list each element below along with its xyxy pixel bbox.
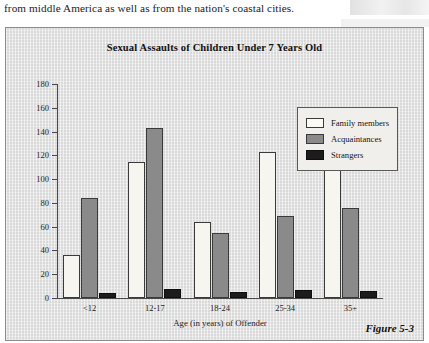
y-tick-label: 80 — [41, 198, 50, 208]
bar-group — [128, 84, 181, 298]
chart-title: Sexual Assaults of Children Under 7 Year… — [6, 42, 423, 53]
y-tick-mark — [52, 250, 58, 251]
y-tick-mark — [52, 298, 58, 299]
bar — [99, 293, 116, 298]
bar-group — [194, 84, 247, 298]
page-body-text: from middle America as well as from the … — [4, 1, 334, 15]
figure-container: Sexual Assaults of Children Under 7 Year… — [5, 27, 424, 341]
bar — [212, 233, 229, 298]
legend-label: Family members — [331, 118, 389, 128]
x-tick-label: 35+ — [344, 303, 357, 313]
y-tick-label: 180 — [36, 79, 49, 89]
legend-item: Strangers — [306, 147, 391, 163]
bar — [360, 291, 377, 298]
y-tick-mark — [52, 227, 58, 228]
y-tick-label: 40 — [41, 245, 50, 255]
legend-swatch — [306, 134, 324, 144]
x-tick-label: 12-17 — [145, 303, 165, 313]
y-tick-mark — [52, 203, 58, 204]
bar — [230, 292, 247, 298]
bar — [194, 222, 211, 298]
x-axis-line — [57, 298, 383, 299]
legend-swatch — [306, 118, 324, 128]
y-axis-line — [57, 84, 58, 299]
y-tick-mark — [52, 84, 58, 85]
y-tick-mark — [52, 108, 58, 109]
scan-artifact-secondary — [341, 19, 429, 27]
bar — [128, 162, 145, 298]
y-tick-label: 100 — [36, 174, 49, 184]
bar-group — [63, 84, 116, 298]
bar — [146, 128, 163, 298]
bar — [164, 289, 181, 299]
legend-item: Acquaintances — [306, 131, 391, 147]
legend-label: Strangers — [331, 150, 363, 160]
x-tick-label: 25-34 — [275, 303, 295, 313]
y-tick-mark — [52, 179, 58, 180]
chart-legend: Family membersAcquaintancesStrangers — [297, 107, 398, 171]
y-tick-label: 140 — [36, 127, 49, 137]
y-tick-mark — [52, 155, 58, 156]
scan-artifact — [350, 0, 429, 15]
y-tick-label: 0 — [45, 293, 49, 303]
bar — [295, 290, 312, 298]
y-tick-label: 20 — [41, 269, 50, 279]
y-tick-label: 60 — [41, 222, 50, 232]
x-tick-label: 18-24 — [210, 303, 230, 313]
y-tick-mark — [52, 274, 58, 275]
figure-caption: Figure 5-3 — [365, 322, 414, 334]
bar — [63, 255, 80, 298]
x-tick-label: <12 — [83, 303, 96, 313]
bar — [259, 152, 276, 298]
legend-label: Acquaintances — [331, 134, 382, 144]
legend-swatch — [306, 150, 324, 160]
x-axis-title: Age (in years) of Offender — [57, 318, 383, 328]
bar — [324, 164, 341, 298]
bar — [277, 216, 294, 298]
bar — [81, 198, 98, 298]
y-tick-label: 160 — [36, 103, 49, 113]
y-tick-label: 120 — [36, 150, 49, 160]
y-tick-mark — [52, 132, 58, 133]
legend-item: Family members — [306, 115, 391, 131]
bar — [342, 208, 359, 298]
